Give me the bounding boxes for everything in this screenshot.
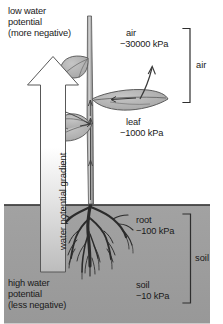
leaf-transpiring-right (92, 89, 168, 110)
soil-annotation-name: soil (136, 280, 149, 291)
plant-stem (87, 16, 94, 204)
air-bracket (183, 29, 190, 103)
air-bracket-label: air (196, 60, 206, 70)
air-annotation-name: air (126, 28, 136, 39)
high-water-potential-label: high water potential (less negative) (8, 278, 66, 312)
water-potential-gradient-label: water potential gradient (57, 153, 68, 250)
root-annotation-value: −100 kPa (136, 226, 174, 237)
leaf-annotation-name: leaf (126, 117, 140, 128)
low-water-potential-label: low water potential (more negative) (8, 6, 71, 40)
leaf-annotation-value: −1000 kPa (120, 128, 163, 139)
soil-annotation-value: −10 kPa (136, 291, 169, 302)
air-annotation-value: −30000 kPa (120, 39, 168, 50)
water-potential-diagram: low water potential (more negative) high… (0, 0, 223, 324)
diagram-graphics (0, 0, 223, 324)
soil-bracket-label: soil (195, 253, 209, 263)
root-annotation-name: root (136, 215, 151, 226)
